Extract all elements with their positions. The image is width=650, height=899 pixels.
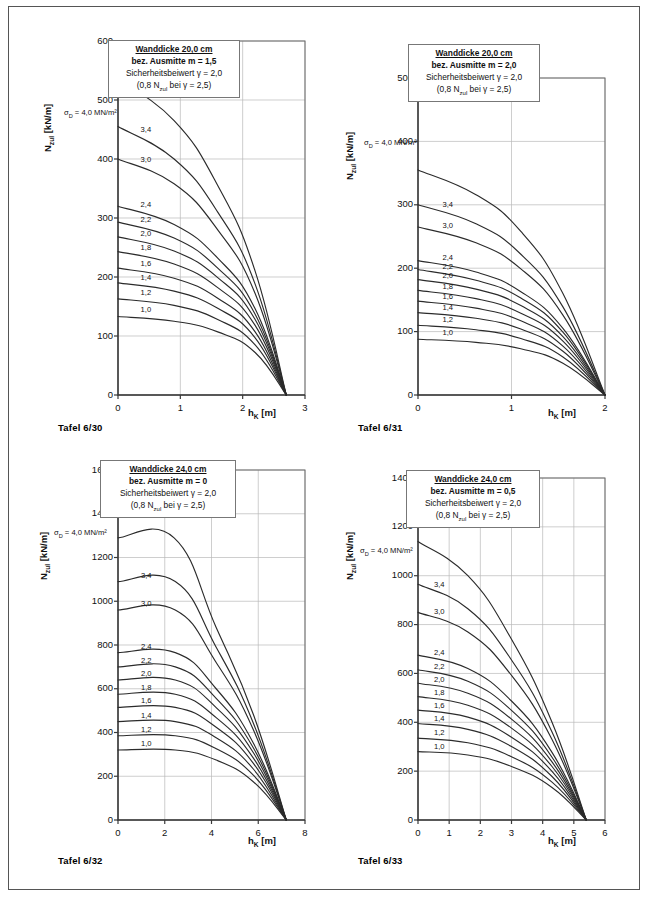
y-axis-title: Nzul [kN/m] [42, 104, 55, 152]
curve-label-1-6: 1,6 [434, 701, 445, 710]
curve-label-3-0: 3,0 [141, 155, 152, 164]
y-axis-title: Nzul [kN/m] [38, 532, 51, 580]
y-axis-tick-label: 1200 [72, 551, 113, 562]
y-axis-tick-label: 0 [72, 389, 113, 400]
chart-block-tafel-6-32: 0200400600800100012001400160002468Nzul [… [30, 458, 330, 883]
x-axis-tick-label: 4 [198, 827, 226, 838]
curve-label-1-6: 1,6 [141, 259, 152, 268]
legend-note: (0,8 Nzul bei γ = 2,5) [415, 84, 533, 97]
y-axis-tick-label: 800 [72, 639, 113, 650]
curve-label-2-0: 2,0 [141, 669, 152, 678]
curve-label-1-2: 1,2 [434, 728, 445, 737]
x-axis-title: hK [m] [548, 407, 576, 420]
legend-note: (0,8 Nzul bei γ = 2,5) [413, 510, 533, 523]
curve-label-2-2: 2,2 [434, 662, 445, 671]
legend-eccentricity: bez. Ausmitte m = 1,5 [115, 56, 233, 68]
curve-label-1-0: 1,0 [141, 305, 152, 314]
y-axis-tick-label: 0 [372, 389, 413, 400]
curve-label-1-8: 1,8 [434, 688, 445, 697]
sigma-d-curve-label: σD = 4,0 MN/m² [64, 108, 117, 119]
legend-safety-factor: Sicherheitsbeiwert γ = 2,0 [413, 498, 533, 510]
y-axis-tick-label: 500 [372, 72, 413, 83]
curve-label-2-4: 2,4 [434, 648, 445, 657]
curve-label-1-0: 1,0 [434, 742, 445, 751]
curve-label-3-0: 3,0 [141, 599, 152, 608]
y-axis-tick-label: 1000 [72, 595, 113, 606]
curve-label-1-2: 1,2 [141, 288, 152, 297]
legend-safety-factor: Sicherheitsbeiwert γ = 2,0 [415, 72, 533, 84]
y-axis-tick-label: 400 [72, 726, 113, 737]
chart-legend-box: Wanddicke 20,0 cmbez. Ausmitte m = 1,5Si… [108, 40, 240, 98]
curve-label-2-4: 2,4 [141, 200, 152, 209]
curve-label-2-4: 2,4 [141, 642, 152, 651]
chart-legend-box: Wanddicke 24,0 cmbez. Ausmitte m = 0Sich… [100, 460, 236, 518]
legend-wall-thickness: Wanddicke 20,0 cm [115, 44, 233, 56]
curve-label-1-8: 1,8 [442, 282, 453, 291]
curve-label-1-0: 1,0 [442, 328, 453, 337]
y-axis-tick-label: 600 [72, 682, 113, 693]
x-axis-tick-label: 6 [591, 827, 619, 838]
x-axis-tick-label: 1 [498, 402, 526, 413]
curve-label-2-0: 2,0 [141, 229, 152, 238]
sigma-d-curve-label: σD = 4,0 MN/m² [54, 528, 107, 539]
y-axis-tick-label: 400 [372, 716, 413, 727]
legend-wall-thickness: Wanddicke 24,0 cm [107, 464, 229, 476]
legend-eccentricity: bez. Ausmitte m = 2,0 [415, 60, 533, 72]
y-axis-tick-label: 100 [372, 325, 413, 336]
curve-label-3-0: 3,0 [442, 221, 453, 230]
legend-wall-thickness: Wanddicke 20,0 cm [415, 48, 533, 60]
curve-label-2-0: 2,0 [434, 675, 445, 684]
x-axis-tick-label: 0 [104, 402, 132, 413]
x-axis-tick-label: 1 [435, 827, 463, 838]
x-axis-tick-label: 0 [404, 402, 432, 413]
chart-legend-box: Wanddicke 20,0 cmbez. Ausmitte m = 2,0Si… [408, 44, 540, 102]
chart-caption: Tafel 6/31 [358, 422, 403, 433]
y-axis-tick-label: 600 [372, 667, 413, 678]
x-axis-tick-label: 8 [291, 827, 319, 838]
curve-label-1-2: 1,2 [141, 725, 152, 734]
curve-label-1-4: 1,4 [434, 714, 445, 723]
chart-caption: Tafel 6/33 [358, 855, 403, 866]
curve-label-1-4: 1,4 [141, 273, 152, 282]
x-axis-tick-label: 2 [466, 827, 494, 838]
curve-label-1-0: 1,0 [141, 739, 152, 748]
legend-wall-thickness: Wanddicke 24,0 cm [413, 474, 533, 486]
legend-safety-factor: Sicherheitsbeiwert γ = 2,0 [115, 68, 233, 80]
y-axis-title: Nzul [kN/m] [344, 532, 357, 580]
curve-label-1-6: 1,6 [141, 696, 152, 705]
curve-label-3-4: 3,4 [141, 571, 152, 580]
curve-label-2-0: 2,0 [442, 271, 453, 280]
curve-label-3-4: 3,4 [442, 200, 453, 209]
y-axis-tick-label: 300 [372, 198, 413, 209]
curve-label-1-4: 1,4 [141, 711, 152, 720]
y-axis-tick-label: 100 [72, 330, 113, 341]
legend-eccentricity: bez. Ausmitte m = 0,5 [413, 486, 533, 498]
x-axis-tick-label: 3 [291, 402, 319, 413]
x-axis-title: hK [m] [248, 407, 276, 420]
curve-1-6 [418, 710, 586, 820]
chart-caption: Tafel 6/30 [58, 422, 103, 433]
curve-label-2-2: 2,2 [141, 656, 152, 665]
curve-label-1-2: 1,2 [442, 315, 453, 324]
chart-caption: Tafel 6/32 [58, 855, 103, 866]
y-axis-title: Nzul [kN/m] [344, 132, 357, 180]
y-axis-tick-label: 200 [372, 765, 413, 776]
curve-label-3-4: 3,4 [141, 125, 152, 134]
x-axis-title: hK [m] [548, 835, 576, 848]
y-axis-tick-label: 200 [72, 770, 113, 781]
curve-label-2-2: 2,2 [442, 262, 453, 271]
curve-label-2-2: 2,2 [141, 215, 152, 224]
y-axis-tick-label: 0 [372, 814, 413, 825]
y-axis-tick-label: 200 [72, 271, 113, 282]
chart-block-tafel-6-31: 0100200300400500012Nzul [kN/m]hK [m]Wand… [330, 30, 630, 450]
y-axis-tick-label: 500 [72, 94, 113, 105]
x-axis-tick-label: 2 [151, 827, 179, 838]
x-axis-tick-label: 0 [104, 827, 132, 838]
x-axis-tick-label: 0 [404, 827, 432, 838]
y-axis-tick-label: 200 [372, 262, 413, 273]
x-axis-tick-label: 1 [166, 402, 194, 413]
chart-block-tafel-6-30: 01002003004005006000123Nzul [kN/m]hK [m]… [30, 30, 330, 450]
curve-1-0 [118, 317, 286, 395]
document-page: 01002003004005006000123Nzul [kN/m]hK [m]… [0, 0, 650, 899]
legend-eccentricity: bez. Ausmitte m = 0 [107, 476, 229, 488]
